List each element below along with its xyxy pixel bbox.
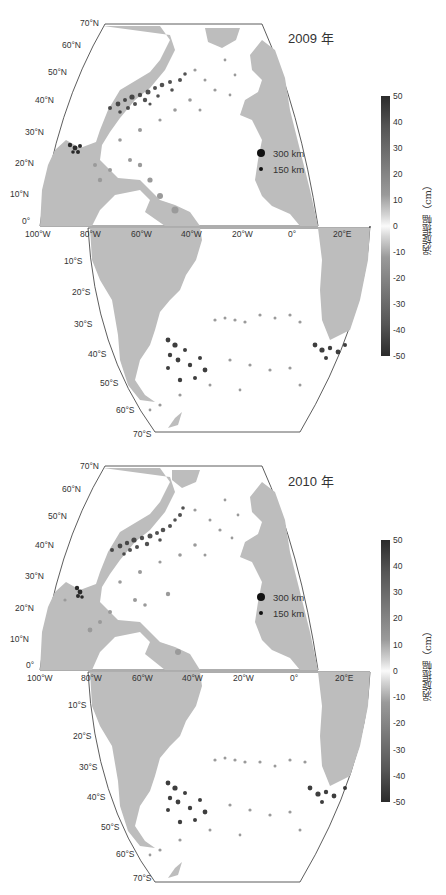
- lat-label-20s: 20°S: [72, 287, 91, 297]
- lat-label-10n: 10°N: [10, 189, 29, 199]
- amplitude-colorbar: [381, 540, 390, 802]
- lon-label-80w: 80°W: [80, 229, 101, 239]
- lon-label-20w: 20°W: [232, 229, 253, 239]
- cbar-tick: -30: [393, 745, 405, 755]
- lon-label-40w: 40°W: [182, 673, 203, 683]
- lon-label-20e: 20°E: [335, 673, 354, 683]
- legend-label: 300 km: [273, 592, 304, 603]
- year-label: 2009 年: [288, 28, 334, 47]
- legend-item-150km: 150 km: [257, 605, 304, 621]
- cbar-tick: -50: [393, 797, 405, 807]
- lat-label-30n: 30°N: [25, 127, 44, 137]
- lat-label-10s: 10°S: [68, 700, 87, 710]
- cbar-tick: 20: [393, 613, 402, 623]
- lon-label-80w: 80°W: [81, 673, 102, 683]
- legend-label: 150 km: [273, 164, 304, 175]
- southern-africa-land: [318, 228, 370, 340]
- lon-label-60w: 60°W: [131, 229, 152, 239]
- lat-label-30s: 30°S: [79, 762, 98, 772]
- large-eddy-marker-icon: [257, 149, 265, 157]
- lat-label-20n: 20°N: [15, 158, 34, 168]
- lat-label-30s: 30°S: [74, 319, 93, 329]
- lon-label-20e: 20°E: [333, 229, 352, 239]
- amplitude-colorbar: [381, 96, 390, 356]
- legend-label: 300 km: [273, 148, 304, 159]
- cbar-tick: -40: [393, 771, 405, 781]
- lon-label-100w: 100°W: [25, 229, 51, 239]
- lat-label-60s: 60°S: [116, 405, 135, 415]
- lon-label-60w: 60°W: [132, 673, 153, 683]
- cbar-tick: -40: [393, 325, 405, 335]
- cbar-tick: 50: [393, 535, 402, 545]
- legend-label: 150 km: [273, 608, 304, 619]
- cbar-tick: -30: [393, 299, 405, 309]
- cbar-tick: 10: [393, 195, 402, 205]
- map-panel-2009: 70°N 60°N 50°N 40°N 30°N 20°N 10°N 0°: [0, 0, 446, 440]
- cbar-tick: 30: [393, 143, 402, 153]
- cbar-tick: -10: [393, 247, 405, 257]
- lat-label-30n: 30°N: [25, 571, 44, 581]
- lat-label-10s: 10°S: [64, 256, 83, 266]
- lat-label-40s: 40°S: [87, 792, 106, 802]
- lat-label-50s: 50°S: [100, 378, 119, 388]
- cbar-tick: -20: [393, 273, 405, 283]
- lat-label-50n: 50°N: [48, 67, 67, 77]
- year-label: 2010 年: [288, 471, 334, 490]
- southern-africa-land: [318, 672, 370, 786]
- cbar-tick: -10: [393, 692, 405, 702]
- lon-label-20w: 20°W: [233, 673, 254, 683]
- lat-label-20n: 20°N: [15, 603, 34, 613]
- cbar-tick: 50: [393, 91, 402, 101]
- map-panel-2010: 70°N 60°N 50°N 40°N 30°N 20°N 10°N 0°: [0, 450, 446, 890]
- large-eddy-marker-icon: [257, 593, 265, 601]
- legend-item-300km: 300 km: [257, 145, 304, 161]
- lat-label-0: 0°: [22, 216, 30, 226]
- lat-label-40n: 40°N: [35, 95, 54, 105]
- atlantic-eddy-map-2009: 70°N 60°N 50°N 40°N 30°N 20°N 10°N 0°: [0, 0, 446, 440]
- lat-label-60s: 60°S: [116, 849, 135, 859]
- small-eddy-marker-icon: [259, 167, 263, 171]
- lon-label-40w: 40°W: [181, 229, 202, 239]
- atlantic-eddy-map-2010: 70°N 60°N 50°N 40°N 30°N 20°N 10°N 0°: [0, 450, 446, 895]
- cbar-tick: 20: [393, 169, 402, 179]
- lat-label-50n: 50°N: [48, 511, 67, 521]
- lat-label-70n: 70°N: [80, 18, 99, 28]
- lat-label-40s: 40°S: [88, 349, 107, 359]
- lat-label-70s: 70°S: [133, 873, 152, 883]
- cbar-tick: 30: [393, 587, 402, 597]
- cbar-tick: 40: [393, 561, 402, 571]
- cbar-tick: 10: [393, 640, 402, 650]
- lat-label-10n: 10°N: [10, 634, 29, 644]
- size-legend: 300 km 150 km: [257, 589, 304, 621]
- small-eddy-marker-icon: [259, 611, 263, 615]
- lat-label-70s: 70°S: [133, 429, 152, 439]
- cbar-tick: 40: [393, 117, 402, 127]
- lat-label-20s: 20°S: [73, 731, 92, 741]
- lat-label-60n: 60°N: [62, 40, 81, 50]
- legend-item-150km: 150 km: [257, 161, 304, 177]
- cbar-tick: -50: [393, 351, 405, 361]
- lat-label-0: 0°: [26, 660, 34, 670]
- lat-label-50s: 50°S: [101, 822, 120, 832]
- lat-label-60n: 60°N: [62, 484, 81, 494]
- colorbar-label: 涡旋振幅（cm）: [420, 626, 435, 701]
- lon-label-100w: 100°W: [27, 673, 53, 683]
- lat-label-70n: 70°N: [80, 461, 99, 471]
- cbar-tick: -20: [393, 718, 405, 728]
- cbar-tick: 0: [393, 221, 398, 231]
- lon-label-0: 0°: [290, 673, 298, 683]
- cbar-tick: 0: [393, 666, 398, 676]
- legend-item-300km: 300 km: [257, 589, 304, 605]
- lat-label-40n: 40°N: [35, 540, 54, 550]
- size-legend: 300 km 150 km: [257, 145, 304, 177]
- colorbar-label: 涡旋振幅（cm）: [420, 180, 435, 255]
- lon-label-0: 0°: [288, 229, 296, 239]
